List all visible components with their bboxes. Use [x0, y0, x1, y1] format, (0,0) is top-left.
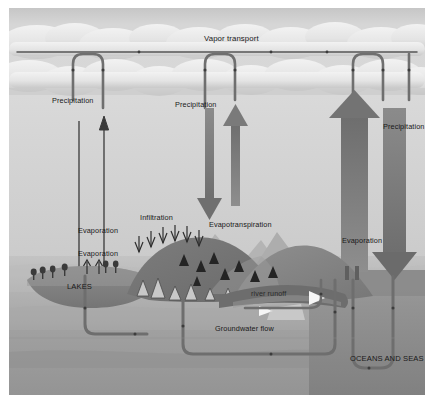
label-evaporation-ocean: Evaporation — [342, 236, 382, 245]
label-vapor-transport: Vapor transport — [204, 34, 259, 43]
label-evapotranspiration: Evapotranspiration — [209, 220, 272, 229]
label-precipitation-right: Precipitation — [383, 122, 424, 131]
label-river-runoff: river runoff — [251, 289, 286, 298]
label-groundwater-flow: Groundwater flow — [215, 324, 274, 333]
label-lakes: LAKES — [67, 282, 92, 291]
diagram-canvas: Vapor transport Precipitation Precipitat… — [9, 8, 425, 395]
water-cycle-diagram: Vapor transport Precipitation Precipitat… — [0, 0, 443, 412]
label-evaporation-left: Evaporation — [78, 226, 118, 235]
label-oceans-and-seas: OCEANS AND SEAS — [350, 354, 424, 363]
scene-graphics — [9, 8, 425, 395]
label-precipitation-center: Precipitation — [175, 100, 216, 109]
label-precipitation-left: Precipitation — [52, 96, 93, 105]
cloud-shadow — [9, 88, 425, 95]
label-infiltration: Infiltration — [140, 213, 173, 222]
label-evaporation-lake: Evaporation — [78, 249, 118, 258]
